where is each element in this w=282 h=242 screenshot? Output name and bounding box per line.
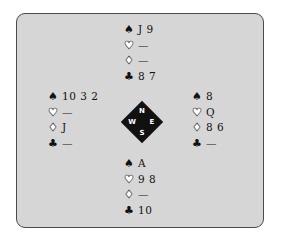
east-diamonds: ♦8 6 (191, 120, 224, 136)
north-clubs: ♣8 7 (123, 69, 156, 85)
club-icon: ♣ (191, 136, 203, 152)
spade-icon: ♠ (123, 22, 135, 38)
compass-south-label: S (137, 129, 147, 137)
diamond-icon: ♦ (47, 120, 59, 136)
east-clubs: ♣— (191, 136, 224, 152)
cards: — (138, 38, 149, 54)
diamond-icon: ♦ (123, 187, 135, 203)
cards: 10 3 2 (62, 89, 98, 105)
cards: 10 (138, 203, 152, 219)
cards: — (138, 187, 149, 203)
east-hearts: ♥Q (191, 105, 224, 121)
cards: — (62, 105, 73, 121)
cards: J (62, 120, 67, 136)
west-diamonds: ♦J (47, 120, 98, 136)
cards: 9 8 (138, 172, 156, 188)
west-spades: ♠10 3 2 (47, 89, 98, 105)
diamond-icon: ♦ (191, 120, 203, 136)
compass-west-label: W (127, 118, 137, 126)
heart-icon: ♥ (47, 105, 59, 121)
diamond-icon: ♦ (123, 53, 135, 69)
spade-icon: ♠ (123, 156, 135, 172)
spade-icon: ♠ (47, 89, 59, 105)
south-clubs: ♣10 (123, 203, 156, 219)
south-spades: ♠A (123, 156, 156, 172)
club-icon: ♣ (123, 69, 135, 85)
cards: 8 6 (206, 120, 224, 136)
cards: — (138, 53, 149, 69)
south-hearts: ♥9 8 (123, 172, 156, 188)
club-icon: ♣ (47, 136, 59, 152)
cards: — (206, 136, 217, 152)
cards: 8 (206, 89, 213, 105)
heart-icon: ♥ (123, 172, 135, 188)
west-hearts: ♥— (47, 105, 98, 121)
compass-east-label: E (147, 118, 157, 126)
south-hand: ♠A ♥9 8 ♦— ♣10 (123, 156, 156, 218)
cards: J 9 (138, 22, 154, 38)
north-spades: ♠J 9 (123, 22, 156, 38)
north-hand: ♠J 9 ♥— ♦— ♣8 7 (123, 22, 156, 84)
heart-icon: ♥ (191, 105, 203, 121)
club-icon: ♣ (123, 203, 135, 219)
east-hand: ♠8 ♥Q ♦8 6 ♣— (191, 89, 224, 151)
south-diamonds: ♦— (123, 187, 156, 203)
north-diamonds: ♦— (123, 53, 156, 69)
north-hearts: ♥— (123, 38, 156, 54)
cards: Q (206, 105, 215, 121)
compass-diamond: N W E S (121, 101, 163, 143)
cards: A (138, 156, 146, 172)
west-clubs: ♣— (47, 136, 98, 152)
east-spades: ♠8 (191, 89, 224, 105)
compass-north-label: N (137, 107, 147, 115)
cards: — (62, 136, 73, 152)
cards: 8 7 (138, 69, 156, 85)
spade-icon: ♠ (191, 89, 203, 105)
heart-icon: ♥ (123, 38, 135, 54)
west-hand: ♠10 3 2 ♥— ♦J ♣— (47, 89, 98, 151)
